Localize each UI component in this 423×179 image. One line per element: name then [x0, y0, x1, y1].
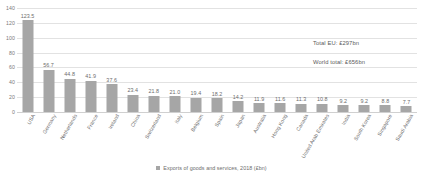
- legend-square-icon: [156, 166, 160, 170]
- x-axis-tick-label: China: [129, 113, 141, 128]
- bar-slot[interactable]: 44.8: [59, 8, 80, 112]
- x-axis-tick-label: Canada: [295, 113, 309, 132]
- x-axis-tick-label: Germany: [41, 113, 57, 135]
- bar-slot[interactable]: 56.7: [38, 8, 59, 112]
- bar-slot[interactable]: 21.8: [143, 8, 164, 112]
- bar[interactable]: [106, 84, 117, 112]
- chart-legend: Exports of goods and services, 2018 (£bn…: [0, 165, 423, 171]
- bar-value-label: 7.7: [403, 99, 411, 105]
- bar[interactable]: [359, 105, 370, 112]
- legend-label: Exports of goods and services, 2018 (£bn…: [163, 165, 266, 171]
- x-axis-tick-label: France: [85, 113, 98, 130]
- y-axis-tick-label: 0: [12, 109, 15, 115]
- x-axis-tick-label: Saudi Arabia: [394, 113, 414, 142]
- x-axis-tick-label: Spain: [213, 113, 225, 128]
- y-axis: 020406080100120140: [0, 8, 17, 112]
- bar[interactable]: [233, 101, 244, 112]
- x-axis-tick-label: Italy: [173, 113, 183, 124]
- x-axis-tick-label: Ireland: [107, 113, 120, 130]
- x-axis-tick-label: USA: [25, 113, 36, 125]
- bar-slot[interactable]: 11.3: [291, 8, 312, 112]
- x-axis-tick-label: India: [341, 113, 352, 126]
- x-axis-tick-label: Japan: [234, 113, 246, 128]
- bar-value-label: 9.2: [361, 98, 369, 104]
- bar[interactable]: [211, 98, 222, 112]
- y-axis-tick-label: 80: [9, 50, 15, 56]
- x-axis-tick-label: South Korea: [353, 113, 373, 141]
- bar-slot[interactable]: 11.9: [249, 8, 270, 112]
- bar-value-label: 21.8: [148, 88, 159, 94]
- annotation-total-eu: Total EU: £297bn: [313, 40, 359, 46]
- bar[interactable]: [85, 81, 96, 112]
- bar-value-label: 10.8: [317, 96, 328, 102]
- bar-value-label: 123.5: [21, 13, 35, 19]
- bar[interactable]: [338, 105, 349, 112]
- bar[interactable]: [169, 96, 180, 112]
- bar-value-label: 21.0: [170, 89, 181, 95]
- bar[interactable]: [380, 105, 391, 112]
- x-axis-tick-label: Belgium: [189, 113, 204, 133]
- bar-slot[interactable]: 8.8: [375, 8, 396, 112]
- bar-slot[interactable]: 14.2: [228, 8, 249, 112]
- x-axis: USAGermanyNetherlandsFranceIrelandChinaS…: [17, 113, 417, 161]
- x-axis-tick-label: Switzerland: [143, 113, 162, 140]
- bar[interactable]: [43, 70, 54, 112]
- bar[interactable]: [148, 96, 159, 112]
- bar-value-label: 37.6: [106, 77, 117, 83]
- x-axis-tick-label: Singapore: [376, 113, 393, 137]
- bar[interactable]: [22, 20, 33, 112]
- bar-value-label: 11.9: [254, 96, 264, 102]
- bar-value-label: 44.8: [64, 71, 75, 77]
- bar-slot[interactable]: 37.6: [101, 8, 122, 112]
- bar[interactable]: [401, 106, 412, 112]
- x-axis-tick-label: Netherlands: [58, 113, 77, 141]
- bar-value-label: 18.2: [212, 91, 223, 97]
- bar-value-label: 9.2: [339, 98, 347, 104]
- bar[interactable]: [254, 103, 265, 112]
- bar-value-label: 11.6: [275, 96, 285, 102]
- bar-value-label: 56.7: [43, 62, 54, 68]
- bar[interactable]: [317, 104, 328, 112]
- bar-value-label: 11.3: [296, 96, 306, 102]
- y-axis-tick-label: 140: [6, 5, 15, 11]
- bar[interactable]: [296, 104, 307, 112]
- x-axis-tick-label: Hong Kong: [270, 113, 288, 139]
- y-axis-tick-label: 120: [6, 20, 15, 26]
- y-axis-tick-label: 40: [9, 79, 15, 85]
- y-axis-tick-label: 60: [9, 64, 15, 70]
- bar[interactable]: [275, 103, 286, 112]
- bar-slot[interactable]: 21.0: [164, 8, 185, 112]
- bar-slot[interactable]: 19.4: [185, 8, 206, 112]
- y-axis-tick-label: 100: [6, 35, 15, 41]
- y-axis-tick-label: 20: [9, 94, 15, 100]
- bar-value-label: 8.8: [382, 98, 390, 104]
- bar-value-label: 14.2: [233, 94, 244, 100]
- bar-slot[interactable]: 7.7: [396, 8, 417, 112]
- bar-value-label: 41.9: [85, 73, 96, 79]
- bar[interactable]: [190, 98, 201, 112]
- bar-value-label: 19.4: [191, 90, 202, 96]
- x-axis-tick-label: Australia: [252, 113, 268, 134]
- bar-slot[interactable]: 18.2: [206, 8, 227, 112]
- annotation-world-total: World total: £656bn: [313, 59, 365, 65]
- bar-slot[interactable]: 23.4: [122, 8, 143, 112]
- bar-chart: 020406080100120140 123.556.744.841.937.6…: [0, 0, 423, 179]
- bar-slot[interactable]: 11.6: [270, 8, 291, 112]
- bar-value-label: 23.4: [127, 87, 138, 93]
- bar-slot[interactable]: 123.5: [17, 8, 38, 112]
- bar[interactable]: [127, 95, 138, 112]
- bar[interactable]: [64, 79, 75, 112]
- bar-slot[interactable]: 41.9: [80, 8, 101, 112]
